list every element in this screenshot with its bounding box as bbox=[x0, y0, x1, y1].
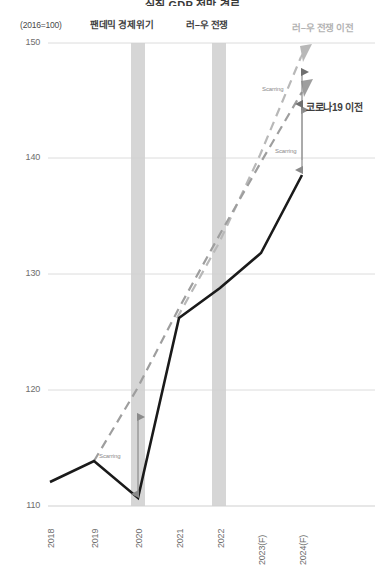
scarring-label-lower: Scarring bbox=[275, 148, 297, 154]
y-tick-120: 120 bbox=[14, 384, 40, 394]
x-tick-2023: 2023(F) bbox=[257, 535, 267, 565]
x-tick-2022: 2022 bbox=[216, 529, 226, 548]
x-tick-2019: 2019 bbox=[90, 529, 100, 548]
shaded-band-war bbox=[212, 43, 226, 506]
gdp-projection-chart: 실질 GDP 전망 경로 (2016=100) bbox=[0, 0, 385, 570]
scarring-label-2020: Scarring bbox=[99, 453, 121, 459]
y-tick-130: 130 bbox=[14, 268, 40, 278]
x-tick-2024: 2024(F) bbox=[298, 535, 308, 565]
y-tick-150: 150 bbox=[14, 37, 40, 47]
x-tick-2021: 2021 bbox=[175, 529, 185, 548]
x-tick-2018: 2018 bbox=[46, 529, 56, 548]
y-tick-140: 140 bbox=[14, 152, 40, 162]
band-label-pandemic: 팬데믹 경제위기 bbox=[90, 17, 153, 31]
series-line-actual bbox=[50, 175, 302, 498]
series-label-prewar: 러–우 전쟁 이전 bbox=[292, 20, 354, 34]
y-tick-110: 110 bbox=[14, 500, 40, 510]
x-tick-2020: 2020 bbox=[134, 529, 144, 548]
scarring-label-upper: Scarring bbox=[262, 86, 284, 92]
series-line-precovid bbox=[94, 79, 313, 461]
band-label-war: 러–우 전쟁 bbox=[186, 17, 228, 31]
chart-plot-area bbox=[0, 0, 385, 570]
series-label-precovid: 코로나19 이전 bbox=[306, 99, 363, 114]
